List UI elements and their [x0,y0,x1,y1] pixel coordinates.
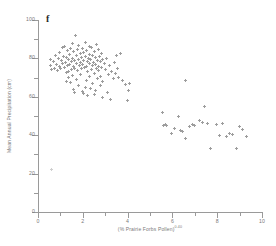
x-axis-title-base: (% Prairie Forbs Pollen) [118,226,175,232]
y-tick-label: 0 [32,209,35,214]
scatter-point [86,94,89,97]
y-tick-minor [34,39,38,40]
y-axis-title: Mean Annual Precipitation (cm) [7,20,12,212]
scatter-point [95,43,98,46]
scatter-point [93,50,96,53]
scatter-point [114,72,117,75]
scatter-point [94,89,97,92]
x-tick-minor [150,212,151,216]
scatter-point [209,147,212,150]
scatter-point [170,132,173,135]
scatter-point [84,41,87,44]
scatter-point [105,57,108,60]
scatter-point [89,87,92,90]
scatter-point [103,62,106,65]
scatter-point [162,124,165,127]
scatter-point [76,48,79,51]
scatter-point [75,78,78,81]
scatter-point [82,51,85,54]
scatter-point [67,76,70,79]
scatter-point [50,168,53,171]
scatter-point [121,79,124,82]
scatter-point [104,68,107,71]
scatter-point [241,128,244,131]
scatter-point [245,135,248,138]
scatter-point [127,89,130,92]
scatter-point [68,53,71,56]
scatter-point [75,54,78,57]
figure-panel: f Mean Annual Precipitation (cm) (% Prai… [0,0,276,246]
x-tick-label: 8 [216,219,219,224]
scatter-point [90,68,93,71]
x-tick-minor [105,212,106,216]
scatter-point [84,86,87,89]
scatter-point [81,47,84,50]
scatter-point [106,91,109,94]
scatter-point [91,82,94,85]
scatter-point [225,135,228,138]
scatter-point [99,75,102,78]
scatter-point [161,111,164,114]
scatter-point [165,124,168,127]
x-axis-title-exponent: 0.40 [175,225,183,229]
scatter-point [73,91,76,94]
scatter-point [107,73,110,76]
scatter-point [69,81,72,84]
scatter-point [124,83,127,86]
x-tick-label: 4 [126,219,129,224]
scatter-point [173,127,176,130]
y-axis-title-wrapper: Mean Annual Precipitation (cm) [0,20,12,212]
x-tick-label: 6 [171,219,174,224]
y-tick-label: 20 [29,171,35,176]
scatter-point [109,98,112,101]
x-tick-label: 0 [37,219,40,224]
scatter-point [101,96,104,99]
scatter-point [86,70,89,73]
y-tick-label: 80 [29,56,35,61]
scatter-point [74,34,77,37]
scatter-point [184,137,187,140]
x-axis-title: (% Prairie Forbs Pollen)0.40 [38,224,262,232]
scatter-point [97,48,100,51]
scatter-point [63,45,66,48]
scatter-point [184,79,187,82]
x-tick-label: 2 [81,219,84,224]
scatter-point [115,54,118,57]
scatter-point [85,79,88,82]
scatter-point [193,124,196,127]
scatter-point [71,74,74,77]
scatter-point [116,67,119,70]
scatter-point [77,84,80,87]
scatter-point [68,63,71,66]
scatter-point [59,67,62,70]
scatter-point [90,46,93,49]
y-tick-label: 100 [26,17,35,22]
scatter-point [58,51,61,54]
scatter-point [108,64,111,67]
scatter-point [88,75,91,78]
scatter-point [128,82,131,85]
scatter-point [119,52,122,55]
y-tick-minor [34,116,38,117]
scatter-point [85,65,88,68]
scatter-point [100,52,103,55]
scatter-point [94,63,97,66]
y-tick-label: 40 [29,133,35,138]
scatter-point [99,84,102,87]
scatter-point [181,130,184,133]
scatter-point [101,58,104,61]
scatter-point [215,123,218,126]
y-tick-label: 60 [29,94,35,99]
x-tick-minor [195,212,196,216]
y-tick-minor [34,78,38,79]
y-tick-minor [34,193,38,194]
scatter-point [112,77,115,80]
scatter-point [80,67,83,70]
scatter-point [126,99,129,102]
scatter-point [71,42,74,45]
plot-area: 020406080100 0246810 [38,20,262,212]
scatter-point [93,93,96,96]
scatter-point [101,80,104,83]
scatter-point [231,133,234,136]
x-tick-label: 10 [259,219,265,224]
